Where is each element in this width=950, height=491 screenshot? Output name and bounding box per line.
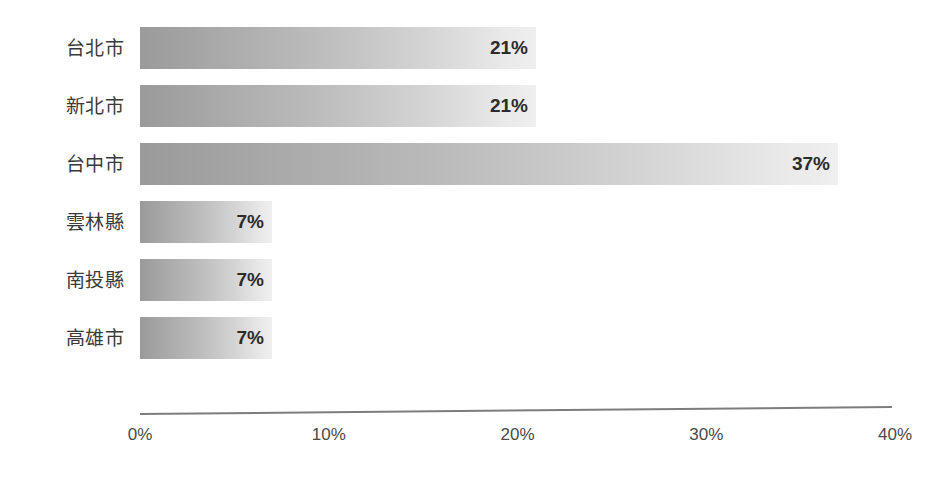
category-label: 雲林縣 bbox=[20, 201, 124, 243]
bar-row: 南投縣7% bbox=[0, 259, 950, 301]
bar-value-label: 7% bbox=[237, 317, 264, 359]
category-label: 高雄市 bbox=[20, 317, 124, 359]
bar-container[interactable]: 7% bbox=[140, 259, 272, 301]
bar-value-label: 7% bbox=[237, 259, 264, 301]
bar-container[interactable]: 7% bbox=[140, 317, 272, 359]
bar-rect[interactable] bbox=[140, 27, 536, 69]
bar-value-label: 21% bbox=[490, 85, 528, 127]
bar-row: 高雄市7% bbox=[0, 317, 950, 359]
bar-container[interactable]: 21% bbox=[140, 27, 536, 69]
bar-container[interactable]: 21% bbox=[140, 85, 536, 127]
x-tick-label: 30% bbox=[676, 425, 736, 445]
bar-row: 新北市21% bbox=[0, 85, 950, 127]
bar-value-label: 21% bbox=[490, 27, 528, 69]
category-label: 新北市 bbox=[20, 85, 124, 127]
bar-row: 雲林縣7% bbox=[0, 201, 950, 243]
category-label: 南投縣 bbox=[20, 259, 124, 301]
category-label: 台北市 bbox=[20, 27, 124, 69]
bar-row: 台中市37% bbox=[0, 143, 950, 185]
category-label: 台中市 bbox=[20, 143, 124, 185]
bar-container[interactable]: 7% bbox=[140, 201, 272, 243]
bar-rect[interactable] bbox=[140, 143, 838, 185]
x-tick-label: 10% bbox=[299, 425, 359, 445]
axis-line-svg bbox=[0, 395, 950, 425]
x-tick-label: 0% bbox=[110, 425, 170, 445]
bar-container[interactable]: 37% bbox=[140, 143, 838, 185]
axis-baseline bbox=[140, 407, 892, 414]
bar-value-label: 37% bbox=[792, 143, 830, 185]
x-tick-label: 20% bbox=[488, 425, 548, 445]
bar-chart: 台北市21%新北市21%台中市37%雲林縣7%南投縣7%高雄市7% 0%10%2… bbox=[0, 0, 950, 491]
bar-value-label: 7% bbox=[237, 201, 264, 243]
bar-rect[interactable] bbox=[140, 85, 536, 127]
x-axis-line bbox=[0, 395, 950, 425]
x-axis-tick-labels: 0%10%20%30%40% bbox=[0, 425, 950, 455]
x-tick-label: 40% bbox=[865, 425, 925, 445]
bar-row: 台北市21% bbox=[0, 27, 950, 69]
